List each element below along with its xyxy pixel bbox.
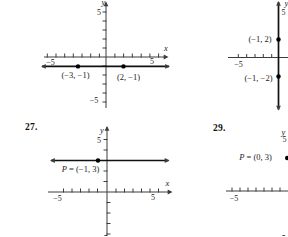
point-label: P = (0, 3) <box>238 152 272 162</box>
axis-letter-x: x <box>163 43 168 53</box>
textbook-figure-grid: −555−5xy(−3, −1)(2, −1)−55y(−1, 2)(−1, −… <box>0 0 288 236</box>
axis-letter-y: y <box>281 127 286 137</box>
arrowhead-right <box>165 64 170 69</box>
graph-top-right: −55y(−1, 2)(−1, −2) <box>228 0 288 111</box>
point-label: (−1, 2) <box>248 34 271 44</box>
problem-number-27: 27. <box>25 122 37 132</box>
tick-label: −5 <box>230 194 239 203</box>
axis-letter-y: y <box>284 0 288 8</box>
arrowhead-right <box>165 158 170 163</box>
arrowhead-up <box>276 1 281 6</box>
point-label: (2, −1) <box>117 72 140 82</box>
graph-problem-29: −55−5yP = (0, 3) <box>226 127 288 236</box>
arrowhead-down <box>276 106 281 111</box>
data-point <box>76 64 80 68</box>
tick-label: −5 <box>277 234 286 236</box>
axis-letter-x: x <box>165 178 170 188</box>
arrowhead-right <box>168 190 173 195</box>
axis-letter-y: y <box>101 0 106 7</box>
data-point <box>121 64 125 68</box>
tick-label: 5 <box>150 57 154 66</box>
tick-label: 5 <box>97 8 101 17</box>
graph-top-left: −555−5xy(−3, −1)(2, −1) <box>41 0 170 108</box>
data-point <box>285 156 288 160</box>
data-point <box>276 37 280 41</box>
tick-label: 5 <box>97 136 101 145</box>
arrowhead-right <box>164 55 169 60</box>
point-label: P = (−1, 3) <box>61 164 100 174</box>
point-label: (−3, −1) <box>62 70 90 80</box>
point-label: (−1, −2) <box>245 73 273 83</box>
data-point <box>96 158 100 162</box>
problem-number-29: 29. <box>213 123 225 133</box>
tick-label: −5 <box>99 234 108 237</box>
data-point <box>276 74 280 78</box>
axis-letter-y: y <box>99 125 104 135</box>
tick-label: −5 <box>234 60 243 69</box>
graph-problem-27: −555−5xyP = (−1, 3) <box>48 125 173 236</box>
tick-label: −5 <box>90 96 99 105</box>
tick-label: 5 <box>151 193 155 202</box>
arrowhead-left <box>41 64 46 69</box>
coordinate-graphs-svg: −555−5xy(−3, −1)(2, −1)−55y(−1, 2)(−1, −… <box>0 0 288 236</box>
arrowhead-up <box>105 126 110 131</box>
arrowhead-left <box>50 158 55 163</box>
tick-label: −5 <box>53 194 62 203</box>
tick-label: 5 <box>282 8 286 17</box>
